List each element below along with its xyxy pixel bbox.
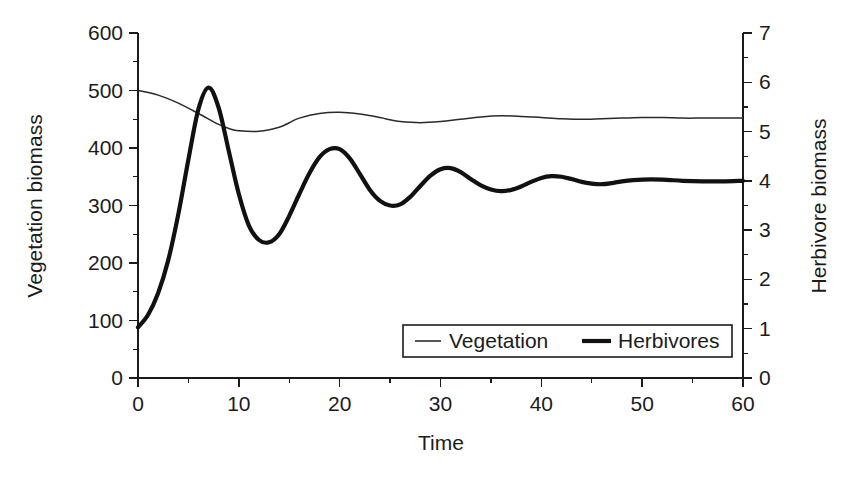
series-line-herbivores: [138, 88, 743, 328]
series-layer: [138, 88, 743, 328]
tick-label-x: 10: [227, 392, 250, 415]
right-axis-tick-labels: 01234567: [759, 21, 771, 389]
tick-label-right: 7: [759, 21, 771, 44]
tick-label-x: 30: [429, 392, 452, 415]
right-axis-ticks: [743, 33, 752, 378]
tick-label-x: 60: [731, 392, 754, 415]
y-axis-title-right: Herbivore biomass: [807, 118, 830, 293]
tick-label-left: 0: [111, 366, 123, 389]
legend-label-herbivores: Herbivores: [618, 329, 720, 352]
chart-legend: Vegetation Herbivores: [403, 325, 732, 357]
tick-label-left: 300: [88, 194, 123, 217]
legend-label-vegetation: Vegetation: [449, 329, 548, 352]
tick-label-right: 2: [759, 267, 771, 290]
tick-label-right: 6: [759, 70, 771, 93]
tick-label-left: 400: [88, 136, 123, 159]
tick-label-right: 3: [759, 218, 771, 241]
tick-label-left: 100: [88, 309, 123, 332]
line-chart-svg: 0100200300400500600 01234567 01020304050…: [0, 0, 848, 480]
tick-label-right: 5: [759, 120, 771, 143]
tick-label-x: 50: [630, 392, 653, 415]
x-axis-title: Time: [418, 431, 464, 454]
tick-label-right: 1: [759, 317, 771, 340]
x-axis-ticks: [138, 378, 743, 387]
x-axis-tick-labels: 0102030405060: [132, 392, 755, 415]
series-line-vegetation: [138, 91, 743, 132]
tick-label-left: 600: [88, 21, 123, 44]
tick-label-x: 40: [530, 392, 553, 415]
left-axis-tick-labels: 0100200300400500600: [88, 21, 123, 389]
tick-label-x: 20: [328, 392, 351, 415]
tick-label-right: 0: [759, 366, 771, 389]
tick-label-left: 200: [88, 251, 123, 274]
y-axis-title-left: Vegetation biomass: [23, 114, 46, 297]
chart-figure: 0100200300400500600 01234567 01020304050…: [0, 0, 848, 480]
tick-label-x: 0: [132, 392, 144, 415]
tick-label-right: 4: [759, 169, 771, 192]
tick-label-left: 500: [88, 79, 123, 102]
